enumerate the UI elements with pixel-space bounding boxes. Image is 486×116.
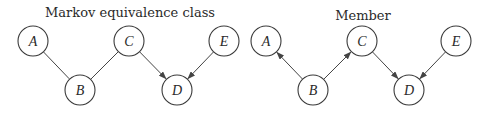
node-a: A	[251, 26, 281, 56]
node-label: D	[171, 83, 182, 98]
node-e: E	[441, 26, 471, 56]
node-label: C	[124, 34, 134, 49]
node-a: A	[18, 26, 48, 56]
node-d: D	[394, 75, 424, 105]
diagram-title: Markov equivalence class	[45, 5, 215, 20]
edge-a-b-undirected	[43, 52, 69, 79]
edge-c-d-directed	[139, 52, 166, 79]
node-label: E	[219, 34, 229, 49]
node-label: A	[28, 34, 38, 49]
node-c: C	[114, 26, 144, 56]
node-label: D	[403, 83, 414, 98]
edge-c-d-directed	[372, 52, 398, 79]
node-b: B	[65, 75, 95, 105]
edge-c-b-undirected	[91, 52, 118, 79]
edge-e-d-directed	[420, 52, 446, 79]
node-c: C	[347, 26, 377, 56]
edge-b-a-directed	[277, 52, 303, 79]
node-d: D	[162, 75, 192, 105]
node-label: B	[76, 83, 85, 98]
diagram-canvas: Markov equivalence classABCDE MemberABCD…	[0, 0, 486, 116]
node-b: B	[298, 75, 328, 105]
edge-b-c-directed	[324, 52, 351, 79]
node-label: B	[309, 83, 318, 98]
node-label: E	[451, 34, 461, 49]
node-label: A	[261, 34, 271, 49]
markov-equivalence-class-graph: Markov equivalence classABCDE	[18, 5, 239, 105]
node-e: E	[209, 26, 239, 56]
node-label: C	[357, 34, 367, 49]
diagram-title: Member	[335, 8, 391, 23]
edge-e-d-directed	[188, 52, 214, 79]
member-graph: MemberABCDE	[251, 8, 471, 105]
